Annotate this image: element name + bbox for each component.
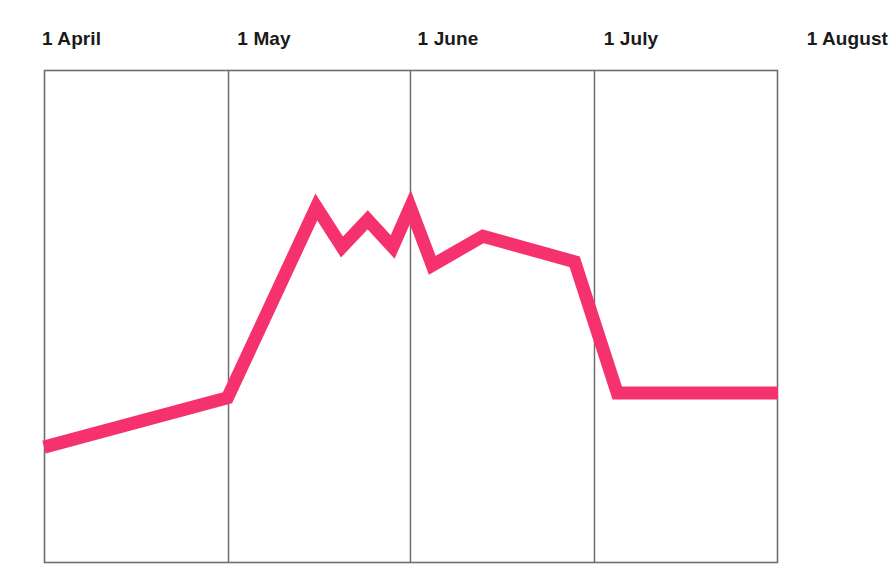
gridline-group bbox=[229, 71, 595, 563]
plot-area bbox=[0, 0, 890, 585]
line-chart: 1 April 1 May 1 June 1 July 1 August bbox=[0, 0, 890, 585]
